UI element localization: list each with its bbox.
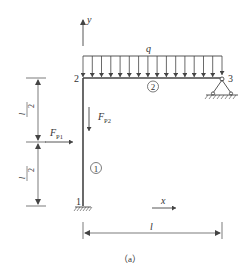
fixed-support-icon	[74, 207, 92, 211]
svg-text:l: l	[17, 176, 27, 179]
span-label: l	[150, 221, 153, 232]
load-fp1: FP1	[45, 127, 73, 142]
fp2-label: FP2	[97, 111, 111, 124]
left-dimension	[26, 78, 46, 206]
member-1-column: 1	[83, 78, 102, 206]
y-axis: y	[83, 14, 92, 46]
distributed-load-q: q	[83, 43, 222, 77]
node-2-label: 2	[74, 73, 79, 84]
x-axis: x	[152, 195, 176, 208]
load-q-label: q	[146, 43, 151, 54]
node-3-label: 3	[228, 73, 233, 84]
pinned-support-icon	[205, 77, 238, 99]
svg-text:2: 2	[27, 104, 36, 108]
dim-upper-label: l 2	[17, 102, 36, 117]
member-2-beam: 2	[83, 78, 222, 92]
svg-text:l: l	[17, 112, 27, 115]
figure-caption: （a）	[119, 254, 141, 264]
load-fp2: FP2	[89, 107, 111, 131]
node-1-label: 1	[76, 196, 81, 207]
fp1-label: FP1	[49, 127, 63, 140]
frame-diagram: y q 2 1	[0, 0, 245, 274]
member-1-label: 1	[94, 164, 99, 174]
svg-text:2: 2	[27, 168, 36, 172]
dim-lower-label: l 2	[17, 166, 36, 181]
member-2-label: 2	[151, 82, 156, 92]
x-axis-label: x	[160, 195, 166, 206]
y-axis-label: y	[86, 14, 92, 25]
load-arrows	[83, 56, 222, 77]
